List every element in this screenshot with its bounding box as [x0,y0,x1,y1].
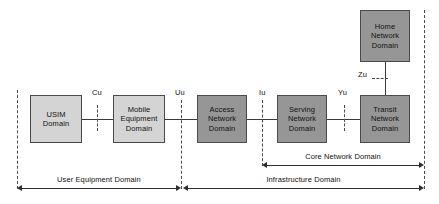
node-label-line: Domain [372,124,398,134]
node-usim-domain[interactable]: USIM Domain [30,95,82,143]
interface-tick-yu [344,105,345,131]
node-transit-network-domain[interactable]: Transit Network Domain [360,95,410,143]
interface-tick-zu [372,78,388,79]
node-label-line: Network [208,114,236,124]
node-label-line: Access [210,105,235,115]
node-label-line: Domain [209,124,235,134]
node-home-network-domain[interactable]: Home Network Domain [360,10,410,62]
span-arrow-core-network-domain [266,165,420,166]
node-label-line: Network [288,114,316,124]
node-label-line: Domain [289,124,315,134]
node-serving-network-domain[interactable]: Serving Network Domain [277,95,327,143]
interface-label-yu: Yu [338,88,347,97]
span-arrowhead-right-infrastructure-domain [419,185,424,191]
interface-label-cu: Cu [92,88,102,97]
span-arrowhead-left-core-network-domain [262,162,267,168]
node-label-line: Network [371,31,399,41]
span-label-infrastructure-domain: Infrastructure Domain [183,175,424,184]
node-label-line: USIM [46,110,65,120]
span-arrowhead-right-user-equipment-domain [176,185,181,191]
span-arrow-user-equipment-domain [21,188,177,189]
boundary-line-uu [181,100,182,189]
boundary-line-right [424,10,425,189]
node-label-line: Transit [373,105,396,115]
span-arrow-infrastructure-domain [187,188,420,189]
span-label-user-equipment-domain: User Equipment Domain [17,175,181,184]
node-label-line: Network [371,114,399,124]
node-label-line: Domain [43,119,69,129]
interface-label-uu: Uu [175,88,185,97]
interface-tick-cu [97,105,98,131]
node-access-network-domain[interactable]: Access Network Domain [197,95,247,143]
span-arrowhead-left-user-equipment-domain [17,185,22,191]
node-label-line: Home [375,22,395,32]
interface-label-zu: Zu [358,70,367,79]
span-label-core-network-domain: Core Network Domain [262,152,424,161]
node-label-line: Equipment [121,114,158,124]
interface-label-iu: Iu [259,88,265,97]
node-label-line: Serving [289,105,315,115]
node-label-line: Domain [126,124,152,134]
node-label-line: Domain [372,41,398,51]
span-arrowhead-right-core-network-domain [419,162,424,168]
node-label-line: Mobile [128,105,151,115]
span-arrowhead-left-infrastructure-domain [183,185,188,191]
node-mobile-equipment-domain[interactable]: Mobile Equipment Domain [113,95,165,143]
network-domain-diagram: USIM Domain Mobile Equipment Domain Acce… [0,0,439,204]
